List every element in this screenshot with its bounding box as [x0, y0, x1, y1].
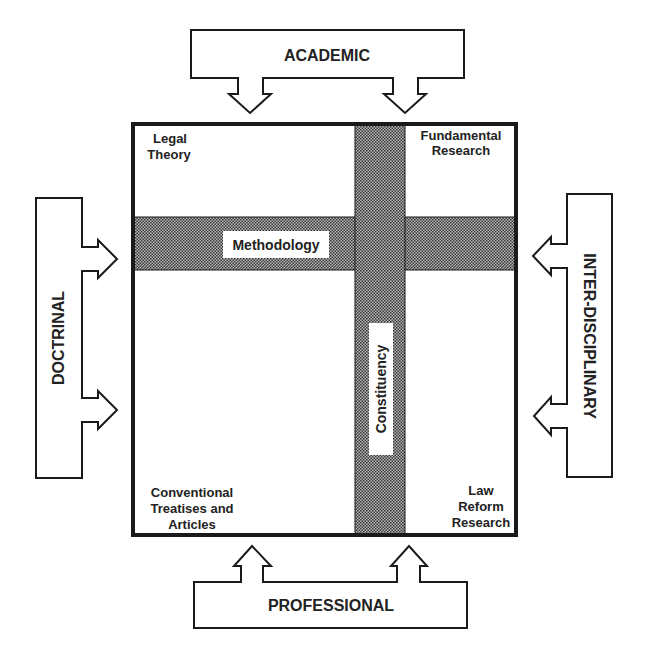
svg-text:Reform: Reform — [458, 499, 504, 514]
svg-text:Research: Research — [432, 143, 491, 158]
methodology-label: Methodology — [232, 237, 319, 253]
svg-text:Treatises and: Treatises and — [150, 501, 233, 516]
svg-text:Theory: Theory — [147, 147, 191, 162]
main-matrix: Methodology Constituency Legal Theory Fu… — [133, 124, 516, 535]
academic-label: ACADEMIC — [284, 47, 371, 64]
professional-influence-box: PROFESSIONAL — [194, 546, 467, 628]
constituency-label: Constituency — [373, 344, 389, 433]
professional-label: PROFESSIONAL — [268, 597, 394, 614]
research-typology-diagram: ACADEMIC PROFESSIONAL DOCTRINAL INTER-DI… — [0, 0, 646, 659]
interdisciplinary-label: INTER-DISCIPLINARY — [581, 253, 598, 419]
left-arrow-icon — [533, 194, 612, 477]
svg-text:Conventional: Conventional — [151, 485, 233, 500]
svg-text:Legal: Legal — [153, 131, 187, 146]
doctrinal-label: DOCTRINAL — [50, 291, 67, 385]
quadrant-fundamental-research: Fundamental Research — [421, 128, 502, 158]
up-arrow-icon — [194, 546, 467, 628]
quadrant-legal-theory: Legal Theory — [147, 131, 191, 162]
svg-text:Law: Law — [468, 483, 494, 498]
svg-text:Articles: Articles — [168, 517, 216, 532]
down-arrow-icon — [191, 30, 464, 113]
right-arrow-icon — [36, 198, 117, 478]
academic-influence-box: ACADEMIC — [191, 30, 464, 113]
svg-text:Research: Research — [452, 515, 511, 530]
doctrinal-influence-box: DOCTRINAL — [36, 198, 117, 478]
interdisciplinary-influence-box: INTER-DISCIPLINARY — [533, 194, 612, 477]
svg-text:Fundamental: Fundamental — [421, 128, 502, 143]
